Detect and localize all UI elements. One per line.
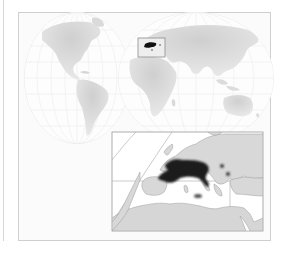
world-map-americas: [24, 12, 130, 144]
inset-map-europe-mediterranean: [112, 132, 263, 231]
distribution-map-figure: [0, 0, 286, 261]
locator-box: [138, 38, 165, 57]
world-map-old-world: [118, 12, 274, 144]
